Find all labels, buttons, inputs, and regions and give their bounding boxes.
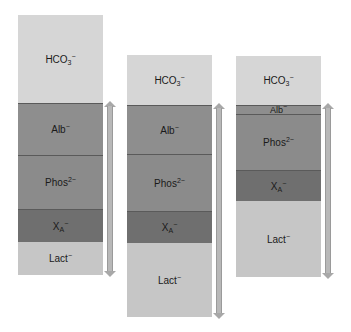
double-arrow-icon xyxy=(213,103,225,319)
segment-xa: XA− xyxy=(127,211,212,243)
arrow-shaft xyxy=(216,108,222,314)
double-arrow-icon xyxy=(322,103,334,279)
segment-hco3: HCO3− xyxy=(236,56,321,105)
label-lact: Lact− xyxy=(158,275,181,286)
column-3: HCO3− Alb− Phos2− XA− Lact− xyxy=(236,56,321,277)
arrow-head-down-icon xyxy=(104,271,116,277)
column-1: HCO3− Alb− Phos2− XA− Lact− xyxy=(18,15,103,275)
double-arrow-icon xyxy=(104,101,116,277)
label-hco3: HCO3− xyxy=(263,75,293,86)
segment-phos: Phos2− xyxy=(236,114,321,170)
segment-phos: Phos2− xyxy=(127,154,212,211)
label-hco3: HCO3− xyxy=(154,75,184,86)
arrow-head-down-icon xyxy=(213,313,225,319)
label-xa: XA− xyxy=(162,222,177,233)
label-phos: Phos2− xyxy=(154,178,185,189)
segment-lact: Lact− xyxy=(18,242,103,275)
segment-alb: Alb− xyxy=(18,103,103,155)
segment-hco3: HCO3− xyxy=(18,15,103,103)
segment-alb: Alb− xyxy=(127,105,212,154)
label-lact: Lact− xyxy=(267,234,290,245)
label-lact: Lact− xyxy=(49,253,72,264)
arrow-shaft xyxy=(325,108,331,274)
label-xa: XA− xyxy=(271,181,286,192)
segment-lact: Lact− xyxy=(236,201,321,277)
segment-hco3: HCO3− xyxy=(127,55,212,105)
arrow-shaft xyxy=(107,106,113,272)
segment-xa: XA− xyxy=(236,170,321,201)
label-alb: Alb− xyxy=(51,124,70,135)
segment-alb: Alb− xyxy=(236,105,321,114)
segment-xa: XA− xyxy=(18,209,103,242)
label-alb: Alb− xyxy=(160,125,179,136)
label-phos: Phos2− xyxy=(263,137,294,148)
label-xa: XA− xyxy=(53,221,68,232)
arrow-head-down-icon xyxy=(322,273,334,279)
segment-phos: Phos2− xyxy=(18,155,103,209)
label-hco3: HCO3− xyxy=(45,54,75,65)
segment-lact: Lact− xyxy=(127,243,212,317)
label-phos: Phos2− xyxy=(45,177,76,188)
column-2: HCO3− Alb− Phos2− XA− Lact− xyxy=(127,55,212,317)
